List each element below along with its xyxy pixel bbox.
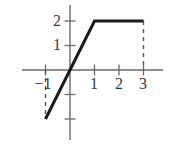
y-tick-label-2: 2: [45, 13, 61, 29]
x-tick-label-2: 2: [115, 76, 123, 92]
y-tick-label-1: 1: [45, 37, 61, 53]
x-tick-label-1: 1: [90, 76, 98, 92]
chart-plot-area: [0, 0, 186, 146]
x-tick-label-minus-1: −1: [34, 76, 51, 92]
x-tick-label-3: 3: [139, 76, 147, 92]
chart-figure: 2 1 −1 1 2 3: [0, 0, 186, 146]
